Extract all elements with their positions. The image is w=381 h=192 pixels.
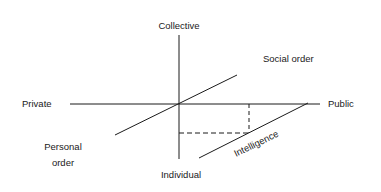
diagonal-axis bbox=[115, 75, 237, 135]
label-individual: Individual bbox=[161, 169, 201, 180]
diagram: Collective Individual Private Public Soc… bbox=[0, 0, 381, 192]
label-public: Public bbox=[328, 98, 354, 109]
label-collective: Collective bbox=[158, 20, 199, 31]
label-intelligence: Intelligence bbox=[232, 128, 280, 159]
label-private: Private bbox=[22, 98, 52, 109]
label-order: order bbox=[52, 157, 74, 168]
label-personal: Personal bbox=[44, 141, 82, 152]
label-social-order: Social order bbox=[263, 53, 314, 64]
